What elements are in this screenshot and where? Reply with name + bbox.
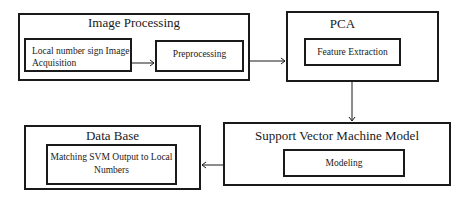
arrow-imageprocessing-to-pca [250,58,285,64]
arrow-acquisition-to-preprocessing [132,60,154,66]
connector-arrows [0,0,468,199]
arrow-pca-to-svm [349,82,355,121]
arrow-svm-to-database [202,162,223,168]
